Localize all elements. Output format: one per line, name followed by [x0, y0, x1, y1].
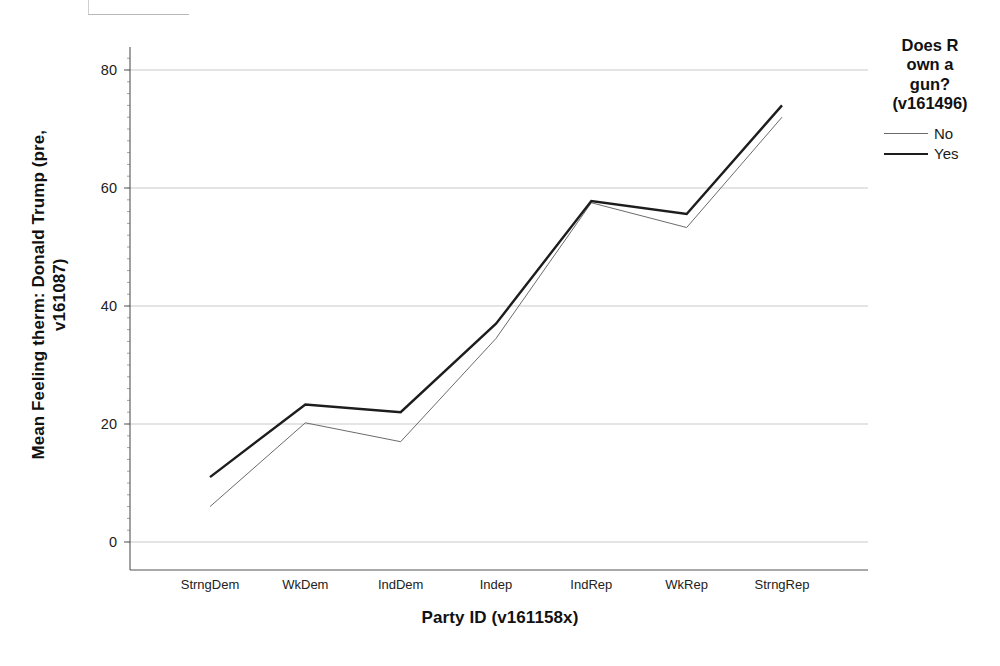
x-tick-label: Indep	[480, 577, 513, 592]
legend-swatch-no-icon	[884, 133, 928, 134]
x-tick-label: StrngRep	[755, 577, 810, 592]
y-axis-ticks: 020406080	[101, 62, 130, 550]
svg-text:20: 20	[101, 416, 117, 432]
series-line-no	[210, 117, 782, 506]
series-line-yes	[210, 105, 782, 477]
svg-text:0: 0	[109, 534, 117, 550]
x-tick-label: WkDem	[282, 577, 328, 592]
x-tick-label: WkRep	[665, 577, 708, 592]
legend-item-no[interactable]: No	[866, 124, 994, 144]
svg-text:40: 40	[101, 298, 117, 314]
legend-title-line-4: (v161496)	[866, 94, 994, 113]
svg-text:80: 80	[101, 62, 117, 78]
x-tick-label: IndDem	[378, 577, 424, 592]
x-tick-label: StrngDem	[181, 577, 240, 592]
x-tick-label: IndRep	[570, 577, 612, 592]
legend-items: NoYes	[866, 124, 994, 164]
legend: Does Rown agun?(v161496) NoYes	[866, 36, 994, 164]
legend-label: Yes	[934, 145, 958, 162]
line-chart: Mean Feeling therm: Donald Trump (pre, v…	[0, 0, 1000, 666]
gridlines	[130, 70, 868, 542]
plot-area: 020406080 StrngDemWkDemIndDemIndepIndRep…	[0, 0, 1000, 666]
legend-title: Does Rown agun?(v161496)	[866, 36, 994, 114]
svg-text:60: 60	[101, 180, 117, 196]
legend-title-line-1: Does R	[866, 36, 994, 55]
legend-label: No	[934, 125, 953, 142]
legend-swatch-yes-icon	[884, 153, 928, 155]
legend-item-yes[interactable]: Yes	[866, 144, 994, 164]
x-axis-title: Party ID (v161158x)	[130, 608, 870, 628]
legend-title-line-2: own a	[866, 55, 994, 74]
legend-title-line-3: gun?	[866, 75, 994, 94]
x-axis-ticks: StrngDemWkDemIndDemIndepIndRepWkRepStrng…	[181, 577, 810, 592]
